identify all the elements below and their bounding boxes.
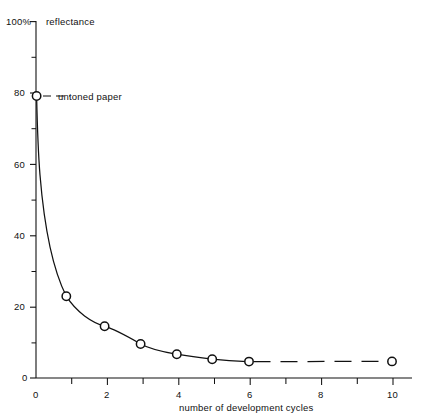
y-tick-label-80: 80 [14,88,25,98]
x-axis-ticks [72,378,393,385]
y-axis-title: reflectance [46,17,95,27]
y-tick-label-40: 40 [14,231,25,241]
chart-plot-area [0,0,421,418]
axis-lines [36,21,412,378]
x-tick-label-4: 4 [176,390,181,400]
data-point-x10 [388,357,396,365]
x-tick-label-0: 0 [33,390,38,400]
y-tick-label-20: 20 [14,302,25,312]
untoned-paper-annotation-label: untoned paper [58,92,122,102]
y-tick-label-0: 0 [22,373,27,383]
x-tick-label-2: 2 [104,390,109,400]
data-point-x2 [100,322,108,330]
data-point-x0 [32,92,40,100]
data-point-x6 [245,357,253,365]
x-tick-label-8: 8 [318,390,323,400]
x-tick-label-6: 6 [247,390,252,400]
chart-figure: 100% 80 60 40 20 0 0 2 4 6 8 10 reflecta… [0,0,421,418]
y-tick-label-60: 60 [14,160,25,170]
data-curve-solid [37,96,248,362]
data-point-markers [32,92,396,366]
data-point-x3 [136,340,144,348]
data-point-x5 [208,355,216,363]
data-point-x4 [173,350,181,358]
x-axis-title: number of development cycles [179,403,313,413]
data-point-x1 [62,292,70,300]
y-tick-label-100: 100% [6,17,31,27]
x-tick-label-10: 10 [387,390,398,400]
